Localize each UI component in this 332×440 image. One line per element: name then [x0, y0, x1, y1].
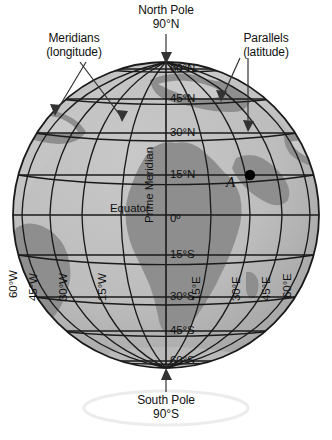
latitude-label-45s: 45°S [170, 324, 195, 337]
longitude-label-15e: 15°E [190, 276, 203, 301]
longitude-label-30e: 30°E [230, 276, 243, 301]
longitude-label-30w: 30°W [57, 273, 70, 301]
point-a-label: A [226, 176, 235, 189]
longitude-label-45w: 45°W [27, 273, 40, 301]
latitude-label-15n: 15°N [170, 168, 195, 181]
latitude-label-45n: 45°N [170, 92, 195, 105]
south-pole-arrowhead [161, 368, 172, 380]
south-pole-name: South Pole [106, 393, 226, 407]
north-pole-label: North Pole 90°N [106, 3, 226, 31]
latitude-label-equator-value: 0º [170, 212, 180, 225]
latitude-label-30n: 30°N [170, 126, 195, 139]
callout-meridians: Meridians (longitude) [24, 31, 124, 59]
point-a-marker [245, 170, 255, 180]
latitude-label-60n: 60°N [170, 62, 195, 75]
latitude-label-60s: 60°S [170, 354, 195, 367]
callout-meridians-line2: (longitude) [24, 45, 124, 59]
north-pole-value: 90°N [106, 17, 226, 31]
globe-diagram: Meridians (longitude) Parallels (latitud… [0, 0, 332, 440]
north-pole-name: North Pole [106, 3, 226, 17]
prime-meridian-label: Prime Meridian [143, 147, 156, 223]
longitude-label-45e: 45°E [260, 276, 273, 301]
longitude-label-15w: 15°W [96, 273, 109, 301]
longitude-label-60w: 60°W [7, 270, 20, 298]
south-pole-value: 90°S [106, 407, 226, 421]
longitude-label-60e: 60°E [281, 273, 294, 298]
callout-parallels-line1: Parallels [218, 31, 314, 45]
callout-meridians-line1: Meridians [24, 31, 124, 45]
globe-graphic [0, 0, 332, 440]
south-pole-label: South Pole 90°S [106, 393, 226, 421]
callout-parallels-line2: (latitude) [218, 45, 314, 59]
callout-parallels: Parallels (latitude) [218, 31, 314, 59]
latitude-label-15s: 15°S [170, 248, 195, 261]
